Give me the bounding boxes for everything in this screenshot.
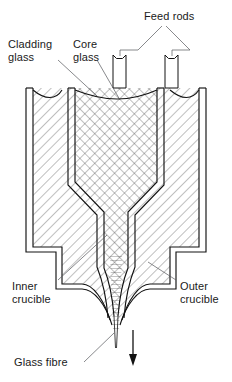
feed-rod-right	[165, 55, 178, 88]
label-outer-crucible-line-1: crucible	[180, 293, 219, 305]
label-cladding-glass-line-0: Cladding	[8, 38, 52, 50]
label-feed-rods: Feed rods	[144, 10, 195, 22]
label-core-glass-line-1: glass	[73, 51, 100, 63]
label-glass-fibre-line-0: Glass fibre	[14, 356, 68, 368]
double-crucible-diagram: Feed rods Cladding glass Core glass Inne…	[0, 0, 232, 382]
label-outer-crucible-line-0: Outer	[180, 280, 208, 292]
label-feed-rods-line-0: Feed rods	[144, 10, 195, 22]
label-glass-fibre: Glass fibre	[14, 356, 68, 368]
label-inner-crucible: Inner crucible	[12, 280, 51, 305]
draw-direction-arrow	[129, 330, 137, 366]
feed-rod-left	[113, 55, 126, 88]
label-core-glass-line-0: Core	[73, 38, 97, 50]
label-outer-crucible: Outer crucible	[180, 280, 219, 305]
label-inner-crucible-line-1: crucible	[12, 293, 51, 305]
label-inner-crucible-line-0: Inner	[12, 280, 38, 292]
label-core-glass: Core glass	[73, 38, 100, 63]
label-cladding-glass: Cladding glass	[8, 38, 52, 63]
label-cladding-glass-line-1: glass	[8, 51, 35, 63]
